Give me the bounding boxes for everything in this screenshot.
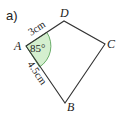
vertex-label-D: D xyxy=(60,6,69,21)
vertex-label-C: C xyxy=(107,37,115,52)
vertex-label-B: B xyxy=(67,100,74,115)
vertex-label-A: A xyxy=(14,39,21,54)
angle-A-label: 85° xyxy=(30,42,45,54)
diagram: a) 3cm 4.5cm 85° A D C B xyxy=(0,0,119,115)
side-AB-label: 4.5cm xyxy=(25,59,49,87)
